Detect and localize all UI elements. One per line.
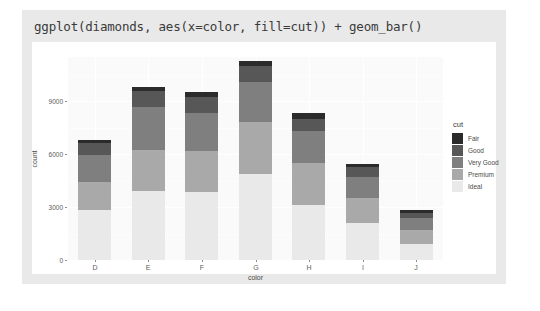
legend-item-label: Very Good: [468, 159, 499, 166]
bar-segment-h-fair[interactable]: [292, 113, 325, 118]
bar-segment-e-fair[interactable]: [132, 87, 165, 91]
bar-j[interactable]: [400, 57, 433, 260]
legend-items: FairGoodVery GoodPremiumIdeal: [452, 132, 510, 192]
legend-swatch-icon: [452, 157, 463, 168]
legend-item-good[interactable]: Good: [452, 144, 510, 156]
y-axis-label: count: [31, 150, 38, 167]
legend-swatch-icon: [452, 133, 463, 144]
bar-segment-f-very-good[interactable]: [185, 113, 218, 151]
bar-segment-i-fair[interactable]: [346, 164, 379, 167]
legend: cut FairGoodVery GoodPremiumIdeal: [452, 120, 510, 192]
legend-swatch-icon: [452, 169, 463, 180]
legend-item-fair[interactable]: Fair: [452, 132, 510, 144]
bar-f[interactable]: [185, 57, 218, 260]
x-axis-label: color: [68, 274, 443, 281]
bar-segment-d-premium[interactable]: [78, 182, 111, 210]
bar-segment-h-ideal[interactable]: [292, 205, 325, 260]
x-tick-mark: [363, 260, 364, 262]
bar-i[interactable]: [346, 57, 379, 260]
y-tick-mark: [65, 260, 67, 261]
x-tick-label-d: D: [92, 264, 97, 271]
x-tick-label-g: G: [253, 264, 258, 271]
bar-segment-i-good[interactable]: [346, 167, 379, 176]
bar-segment-g-fair[interactable]: [239, 61, 272, 67]
bar-segment-h-very-good[interactable]: [292, 131, 325, 163]
bar-segment-h-premium[interactable]: [292, 163, 325, 205]
legend-item-label: Premium: [468, 171, 494, 178]
bar-e[interactable]: [132, 57, 165, 260]
bar-segment-f-fair[interactable]: [185, 92, 218, 98]
y-tick-mark: [65, 154, 67, 155]
legend-title: cut: [452, 120, 510, 129]
screenshot-root: ggplot(diamonds, aes(x=color, fill=cut))…: [0, 0, 540, 311]
bar-segment-d-ideal[interactable]: [78, 210, 111, 260]
y-tick-label: 9000: [49, 98, 63, 105]
bar-segment-g-very-good[interactable]: [239, 82, 272, 123]
legend-item-label: Ideal: [468, 183, 482, 190]
bar-segment-e-premium[interactable]: [132, 150, 165, 191]
bar-d[interactable]: [78, 57, 111, 260]
legend-item-very-good[interactable]: Very Good: [452, 156, 510, 168]
bar-segment-j-fair[interactable]: [400, 210, 433, 212]
bar-segment-d-good[interactable]: [78, 143, 111, 155]
bar-segment-i-ideal[interactable]: [346, 223, 379, 260]
y-tick-label: 3000: [49, 204, 63, 211]
y-tick-mark: [65, 101, 67, 102]
x-tick-mark: [95, 260, 96, 262]
bar-segment-i-premium[interactable]: [346, 198, 379, 223]
x-tick-label-e: E: [146, 264, 151, 271]
bar-segment-e-good[interactable]: [132, 91, 165, 107]
x-tick-mark: [309, 260, 310, 262]
bar-segment-j-premium[interactable]: [400, 230, 433, 244]
bar-segment-g-good[interactable]: [239, 66, 272, 81]
legend-item-label: Good: [468, 147, 484, 154]
x-tick-label-h: H: [306, 264, 311, 271]
y-tick-label: 6000: [49, 151, 63, 158]
legend-item-premium[interactable]: Premium: [452, 168, 510, 180]
x-tick-label-i: I: [362, 264, 364, 271]
bar-segment-d-fair[interactable]: [78, 140, 111, 143]
ggplot-chart: 0300060009000 DEFGHIJ count color cut Fa…: [32, 42, 506, 274]
bar-segment-g-ideal[interactable]: [239, 174, 272, 260]
bar-segment-h-good[interactable]: [292, 119, 325, 131]
bar-segment-d-very-good[interactable]: [78, 155, 111, 182]
legend-swatch-icon: [452, 145, 463, 156]
plot-panel: [68, 57, 443, 260]
legend-swatch-icon: [452, 181, 463, 192]
bar-segment-j-ideal[interactable]: [400, 244, 433, 260]
legend-item-label: Fair: [468, 135, 479, 142]
bar-segment-j-good[interactable]: [400, 213, 433, 218]
bar-segment-j-very-good[interactable]: [400, 218, 433, 230]
plot-title: ggplot(diamonds, aes(x=color, fill=cut))…: [34, 19, 422, 34]
bar-segment-e-very-good[interactable]: [132, 107, 165, 149]
x-tick-mark: [256, 260, 257, 262]
x-tick-mark: [416, 260, 417, 262]
bar-segment-f-ideal[interactable]: [185, 192, 218, 260]
bar-segment-i-very-good[interactable]: [346, 177, 379, 198]
bar-h[interactable]: [292, 57, 325, 260]
bar-segment-e-ideal[interactable]: [132, 191, 165, 260]
x-tick-label-j: J: [414, 264, 418, 271]
x-tick-label-f: F: [200, 264, 204, 271]
bar-segment-f-good[interactable]: [185, 97, 218, 113]
x-tick-mark: [148, 260, 149, 262]
y-tick-label: 0: [59, 257, 63, 264]
bar-g[interactable]: [239, 57, 272, 260]
legend-item-ideal[interactable]: Ideal: [452, 180, 510, 192]
y-tick-mark: [65, 207, 67, 208]
bar-segment-g-premium[interactable]: [239, 122, 272, 174]
x-tick-mark: [202, 260, 203, 262]
bar-segment-f-premium[interactable]: [185, 151, 218, 192]
